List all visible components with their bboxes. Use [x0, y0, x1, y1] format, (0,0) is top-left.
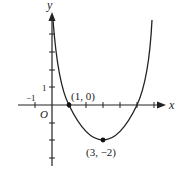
x-tick-label-neg1: −1: [26, 93, 36, 103]
origin-label: O: [40, 108, 48, 120]
x-axis-label: x: [168, 98, 175, 112]
point-1-0: [67, 103, 72, 108]
vertex-point: [101, 138, 106, 143]
parabola-plot: y x O −1 1 (1, 0) (3, −2): [0, 0, 187, 180]
point-label-vertex: (3, −2): [86, 146, 116, 159]
parabola-curve: [53, 20, 152, 140]
point-label-1-0: (1, 0): [71, 90, 95, 103]
y-tick-label-1: 1: [42, 83, 47, 93]
y-axis-label: y: [46, 0, 53, 12]
graph-figure: y x O −1 1 (1, 0) (3, −2): [0, 0, 187, 180]
